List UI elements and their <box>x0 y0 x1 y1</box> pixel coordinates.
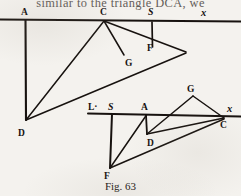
figure-caption: Fig. 63 <box>0 180 241 192</box>
lower-segment-D-C <box>147 118 224 134</box>
figure-plate: similar to the triangle DCA, we A C S x … <box>0 0 241 196</box>
lower-label-X: x <box>226 103 232 114</box>
lower-label-G: G <box>187 84 195 94</box>
lower-label-C: C <box>220 120 227 130</box>
lower-label-A: A <box>141 102 148 112</box>
lower-label-D: D <box>147 138 154 148</box>
lower-segment-S-F <box>110 114 112 168</box>
lower-label-S: S <box>108 101 114 112</box>
lower-label-L: L· <box>88 102 98 112</box>
lower-segment-A-D <box>146 115 147 134</box>
lower-geometric-construction: L· S A x C G D F <box>0 0 241 196</box>
